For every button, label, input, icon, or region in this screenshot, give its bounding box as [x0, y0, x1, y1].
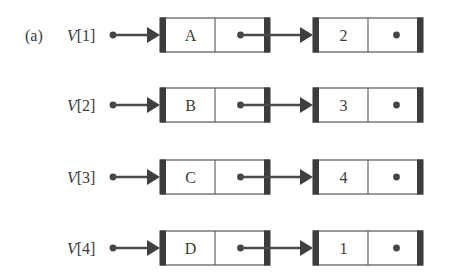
node-left-bar — [160, 231, 166, 266]
list-node: A — [160, 18, 313, 53]
panel-label: (a) — [25, 27, 43, 45]
arrowhead-icon — [147, 97, 160, 113]
null-pointer-dot-icon — [393, 32, 400, 39]
array-cell-label: V[4] — [67, 240, 95, 257]
node-left-bar — [160, 18, 166, 53]
list-node: B — [160, 88, 313, 123]
node-data-value: A — [185, 27, 197, 44]
arrowhead-icon — [300, 97, 313, 113]
list-row-4: V[4]D1 — [67, 231, 423, 266]
list-node: 2 — [313, 18, 423, 53]
head-pointer-arrow — [110, 97, 160, 113]
node-left-bar — [160, 88, 166, 123]
node-left-bar — [313, 18, 319, 53]
arrowhead-icon — [300, 240, 313, 256]
node-data-value: 3 — [340, 97, 348, 114]
list-row-1: V[1]A2 — [67, 18, 423, 53]
head-pointer-arrow — [110, 240, 160, 256]
list-node: 1 — [313, 231, 423, 266]
arrowhead-icon — [147, 169, 160, 185]
node-left-bar — [313, 231, 319, 266]
null-pointer-dot-icon — [393, 174, 400, 181]
node-left-bar — [160, 160, 166, 195]
arrowhead-icon — [147, 27, 160, 43]
node-left-bar — [313, 160, 319, 195]
null-pointer-dot-icon — [393, 102, 400, 109]
arrowhead-icon — [300, 27, 313, 43]
arrowhead-icon — [147, 240, 160, 256]
list-node: 4 — [313, 160, 423, 195]
node-left-bar — [313, 88, 319, 123]
array-cell-label: V[2] — [67, 97, 95, 114]
node-data-value: C — [185, 169, 196, 186]
list-node: C — [160, 160, 313, 195]
list-node: 3 — [313, 88, 423, 123]
head-pointer-arrow — [110, 27, 160, 43]
null-pointer-dot-icon — [393, 245, 400, 252]
node-data-value: 2 — [340, 27, 348, 44]
node-right-bar — [417, 160, 423, 195]
arrowhead-icon — [300, 169, 313, 185]
node-right-bar — [417, 18, 423, 53]
head-pointer-arrow — [110, 169, 160, 185]
linked-list-diagram: (a) V[1]A2V[2]B3V[3]C4V[4]D1 — [0, 0, 449, 273]
node-data-value: B — [185, 97, 196, 114]
node-data-value: D — [185, 240, 197, 257]
node-right-bar — [417, 88, 423, 123]
node-data-value: 1 — [340, 240, 348, 257]
node-right-bar — [417, 231, 423, 266]
node-data-value: 4 — [340, 169, 348, 186]
list-row-2: V[2]B3 — [67, 88, 423, 123]
list-row-3: V[3]C4 — [67, 160, 423, 195]
array-cell-label: V[1] — [67, 27, 95, 44]
list-node: D — [160, 231, 313, 266]
array-cell-label: V[3] — [67, 169, 95, 186]
